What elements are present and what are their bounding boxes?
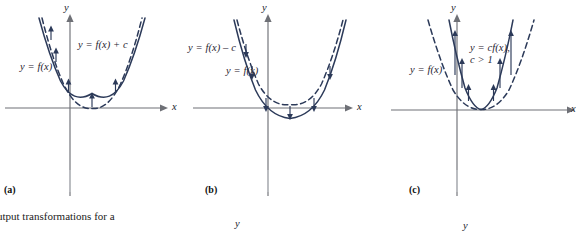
next-row-y-axis-label-2: y [463,220,468,231]
next-row-y-axis-label-1: y [235,218,240,229]
figure-caption: utput transformations for a [0,210,115,222]
